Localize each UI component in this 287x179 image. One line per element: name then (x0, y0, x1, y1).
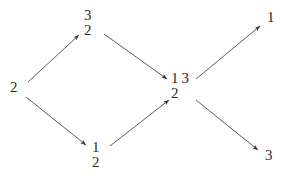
tableau-row: 13 (171, 71, 189, 86)
tableau-row: 2 (171, 86, 179, 101)
edge-center-to-sink-3 (196, 100, 258, 150)
edge-upper-to-center (104, 34, 167, 79)
tableau-row: 2 (92, 155, 100, 170)
tableau-row: 1 (267, 10, 275, 25)
diagram-canvas: 2321213213 (0, 0, 287, 179)
tableau-cell: 2 (10, 80, 18, 95)
node-upper-32: 32 (84, 8, 92, 39)
edge-source-to-upper (28, 35, 79, 82)
tableau-cell: 3 (84, 8, 92, 23)
edge-lower-to-center (110, 100, 169, 146)
node-lower-12: 12 (92, 140, 100, 171)
edge-center-to-sink-1 (196, 26, 260, 79)
tableau-cell: 2 (171, 86, 179, 101)
node-sink-3: 3 (265, 148, 273, 163)
tableau-row: 2 (84, 23, 92, 38)
tableau-cell: 2 (92, 155, 100, 170)
tableau-row: 1 (92, 140, 100, 155)
node-source-2: 2 (10, 80, 18, 95)
edge-source-to-lower (26, 97, 86, 145)
tableau-cell: 1 (267, 10, 275, 25)
tableau-cell: 1 (171, 71, 179, 86)
node-center-132: 132 (171, 71, 189, 102)
edges-group (26, 26, 260, 150)
tableau-row: 3 (84, 8, 92, 23)
tableau-row: 3 (265, 148, 273, 163)
tableau-row: 2 (10, 80, 18, 95)
edge-layer (0, 0, 287, 179)
tableau-cell: 3 (182, 71, 190, 86)
tableau-cell: 2 (84, 23, 92, 38)
tableau-cell: 3 (265, 148, 273, 163)
node-sink-1: 1 (267, 10, 275, 25)
tableau-cell: 1 (92, 140, 100, 155)
